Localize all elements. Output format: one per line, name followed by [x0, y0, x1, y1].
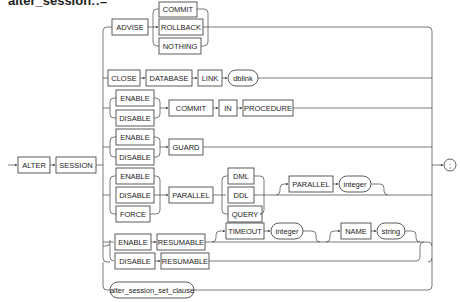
svg-text:NOTHING: NOTHING [163, 42, 198, 51]
svg-text:IN: IN [224, 104, 232, 113]
svg-text:integer: integer [344, 180, 367, 189]
svg-text:NAME: NAME [345, 227, 367, 236]
syntax-diagram: ALTER SESSION ; ADVISE COMMIT ROLLBACK N… [0, 0, 460, 302]
svg-text:COMMIT: COMMIT [163, 5, 194, 14]
svg-text:integer: integer [276, 227, 299, 236]
svg-text:DDL: DDL [233, 191, 248, 200]
branch-close-database-link: CLOSE DATABASE LINK dblink [103, 70, 432, 86]
svg-text:DATABASE: DATABASE [150, 74, 189, 83]
svg-text:PARALLEL: PARALLEL [292, 180, 329, 189]
svg-text:PROCEDURE: PROCEDURE [244, 104, 292, 113]
branch-guard: ENABLE DISABLE GUARD [103, 129, 432, 165]
svg-text:DISABLE: DISABLE [119, 191, 151, 200]
svg-text:TIMEOUT: TIMEOUT [228, 227, 262, 236]
svg-text:DISABLE: DISABLE [119, 114, 151, 123]
svg-text:RESUMABLE: RESUMABLE [158, 238, 204, 247]
branch-advise: ADVISE COMMIT ROLLBACK NOTHING [110, 2, 428, 54]
svg-text:ENABLE: ENABLE [118, 238, 148, 247]
svg-text:ADVISE: ADVISE [116, 23, 144, 32]
branch-parallel: ENABLE DISABLE FORCE PARALLEL DML DDL QU… [103, 168, 432, 222]
svg-text:RESUMABLE: RESUMABLE [162, 257, 208, 266]
svg-text:ALTER: ALTER [22, 161, 46, 170]
svg-text:DISABLE: DISABLE [119, 153, 151, 162]
svg-text:alter_session_set_clause: alter_session_set_clause [110, 286, 194, 295]
branch-commit-in-procedure: ENABLE DISABLE COMMIT IN PROCEDURE [103, 90, 432, 126]
svg-text:ENABLE: ENABLE [120, 172, 150, 181]
svg-text:PARALLEL: PARALLEL [172, 191, 209, 200]
keyword-session: SESSION [56, 157, 96, 173]
svg-text:ENABLE: ENABLE [120, 133, 150, 142]
terminator-semicolon: ; [444, 159, 456, 171]
svg-text:string: string [382, 227, 400, 236]
svg-text:FORCE: FORCE [120, 210, 146, 219]
keyword-alter: ALTER [18, 157, 50, 173]
svg-text:dblink: dblink [233, 74, 253, 83]
svg-text:GUARD: GUARD [172, 143, 200, 152]
svg-text:COMMIT: COMMIT [176, 104, 207, 113]
svg-text:ENABLE: ENABLE [120, 94, 150, 103]
branch-enable-resumable: ENABLE RESUMABLE TIMEOUT integer NAME st… [103, 223, 432, 250]
svg-text:DISABLE: DISABLE [119, 257, 151, 266]
svg-text:DML: DML [233, 172, 249, 181]
svg-text:QUERY: QUERY [232, 210, 259, 219]
svg-text:CLOSE: CLOSE [111, 74, 136, 83]
svg-text:ROLLBACK: ROLLBACK [161, 23, 201, 32]
svg-text:;: ; [449, 161, 451, 170]
svg-text:SESSION: SESSION [59, 161, 92, 170]
svg-text:LINK: LINK [202, 74, 219, 83]
